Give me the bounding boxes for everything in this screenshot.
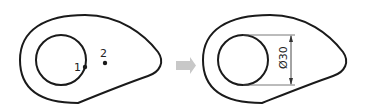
point-1-label: 1 — [74, 61, 81, 74]
right-outer-profile — [203, 15, 346, 103]
right-inner-circle — [218, 35, 268, 85]
left-inner-circle — [36, 35, 86, 85]
left-figure: 1 2 — [20, 15, 161, 103]
point-2-label: 2 — [100, 47, 107, 60]
diameter-dimension-label: Ø30 — [277, 46, 290, 69]
diagram-canvas: 1 2 Ø30 — [0, 0, 367, 111]
dimension-arrowhead-top — [289, 35, 293, 42]
right-arrow-icon — [176, 57, 196, 74]
point-1-marker — [83, 65, 87, 69]
right-figure: Ø30 — [203, 15, 346, 103]
left-outer-profile — [20, 15, 161, 103]
point-2-marker — [103, 61, 107, 65]
dimension-arrowhead-bottom — [289, 78, 293, 85]
diagram-svg: 1 2 Ø30 — [0, 0, 367, 111]
